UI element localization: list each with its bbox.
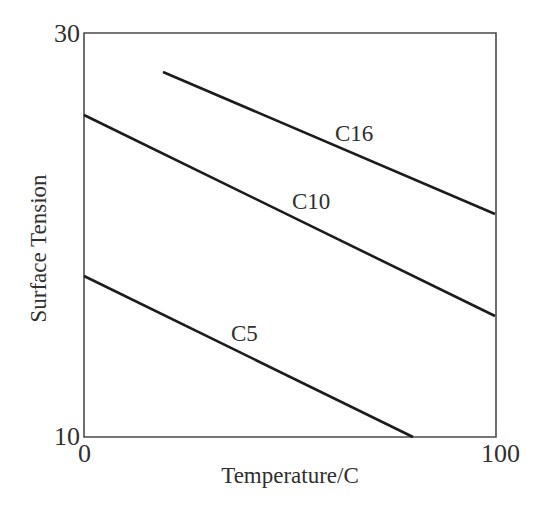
series-label-c16: C16 bbox=[335, 122, 373, 145]
series-line-c10 bbox=[84, 115, 495, 316]
y-axis-label: Surface Tension bbox=[27, 159, 50, 339]
series-line-c5 bbox=[84, 276, 413, 437]
x-axis-tick-max: 100 bbox=[481, 441, 520, 467]
series-label-c10: C10 bbox=[292, 190, 330, 213]
series-label-c5: C5 bbox=[231, 322, 258, 345]
y-axis-tick-max: 30 bbox=[54, 21, 80, 47]
x-axis-label: Temperature/C bbox=[190, 464, 390, 487]
chart-canvas bbox=[0, 0, 537, 507]
chart-figure: 30 10 0 100 Surface Tension Temperature/… bbox=[0, 0, 537, 507]
x-axis-tick-min: 0 bbox=[78, 441, 91, 467]
y-axis-tick-min: 10 bbox=[54, 424, 80, 450]
